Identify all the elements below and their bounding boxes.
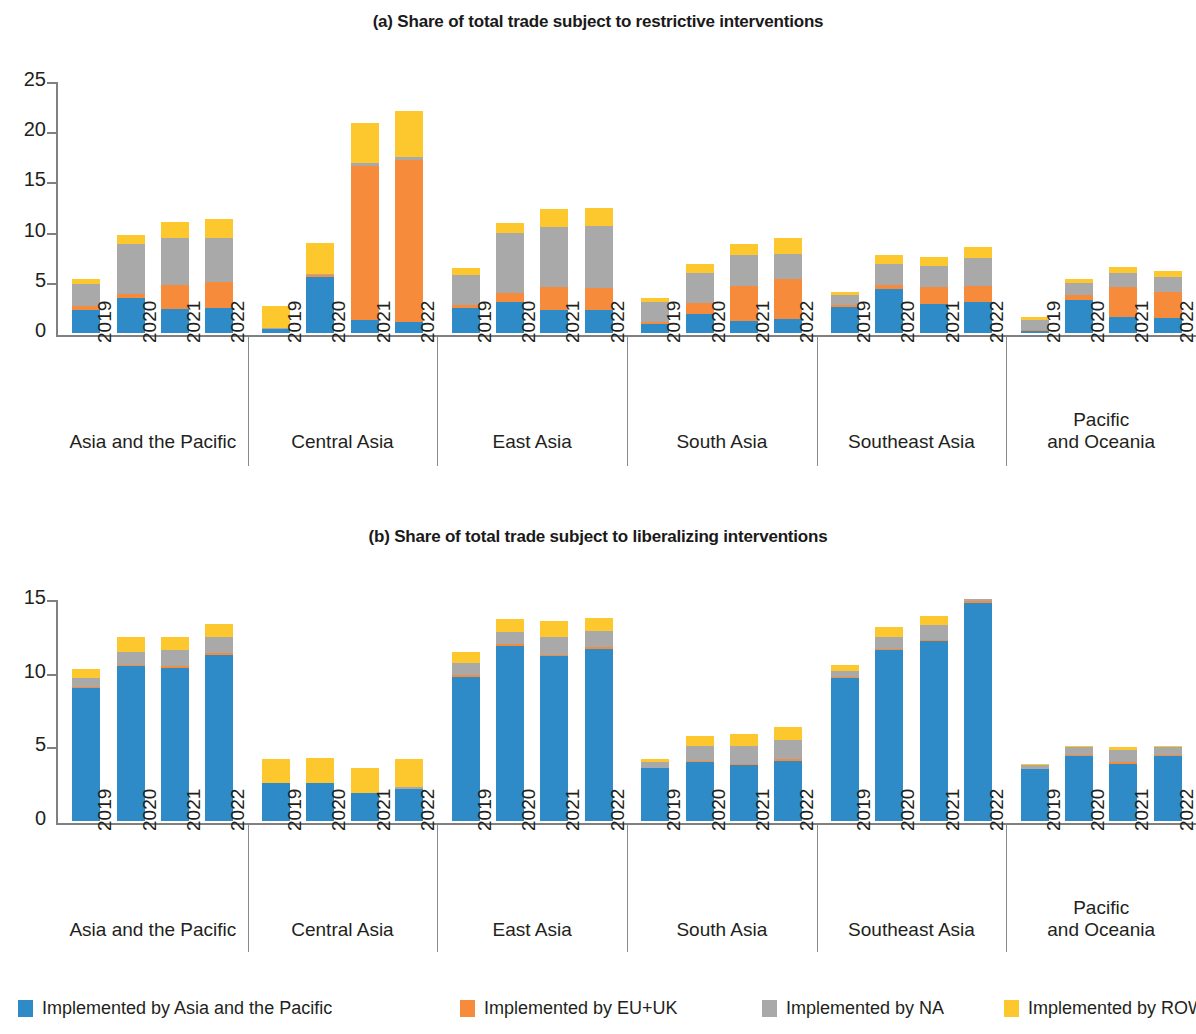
- bar-segment: [117, 637, 145, 652]
- y-tick-mark: [47, 747, 56, 749]
- figure-root: (a) Share of total trade subject to rest…: [0, 0, 1196, 1034]
- bar-segment: [72, 669, 100, 678]
- bar-segment: [205, 637, 233, 653]
- bar-group: [58, 82, 248, 333]
- legend-swatch-icon: [460, 1000, 475, 1017]
- legend-label: Implemented by NA: [786, 998, 944, 1019]
- y-tick-mark: [47, 132, 56, 134]
- x-tick-label-year: 2022: [797, 301, 816, 343]
- x-tick-label-year: 2022: [987, 301, 1006, 343]
- x-axis-group-label: Central Asia: [248, 919, 438, 941]
- x-tick-label-year: 2021: [753, 301, 772, 343]
- group-label-line: and Oceania: [1006, 431, 1196, 453]
- x-tick-label-year: 2020: [140, 301, 159, 343]
- x-tick-label-year: 2020: [1088, 301, 1107, 343]
- panel-b-y-axis-labels: 051015: [0, 560, 46, 825]
- x-axis-group-label: East Asia: [437, 919, 627, 941]
- bar-segment: [774, 740, 802, 759]
- x-tick-label-year: 2019: [854, 789, 873, 831]
- x-tick-label-year: 2022: [987, 789, 1006, 831]
- bar-group: [1006, 82, 1196, 333]
- x-axis-group-label: Asia and the Pacific: [58, 431, 248, 453]
- x-tick-label-year: 2022: [1177, 301, 1196, 343]
- x-tick-label-year: 2020: [1088, 789, 1107, 831]
- bar-segment: [161, 650, 189, 666]
- bar-segment: [452, 268, 480, 275]
- bar-segment: [585, 208, 613, 226]
- legend-item-eu_uk[interactable]: Implemented by EU+UK: [460, 998, 678, 1019]
- bar-segment: [585, 631, 613, 647]
- bar[interactable]: [395, 111, 423, 333]
- x-tick-label-year: 2021: [184, 789, 203, 831]
- legend-item-row[interactable]: Implemented by ROW: [1004, 998, 1196, 1019]
- panel-a-chart: 0510152025 2019202020212022Asia and the …: [0, 60, 1196, 500]
- x-tick-label-year: 2020: [898, 789, 917, 831]
- bar-segment: [730, 255, 758, 286]
- bar-segment: [496, 233, 524, 293]
- legend-item-na[interactable]: Implemented by NA: [762, 998, 944, 1019]
- x-tick-label-year: 2020: [329, 301, 348, 343]
- x-tick-label-year: 2019: [1044, 789, 1063, 831]
- bar-segment: [875, 637, 903, 649]
- bar-segment: [686, 264, 714, 273]
- legend-swatch-icon: [1004, 1000, 1019, 1017]
- bar-segment: [920, 616, 948, 625]
- bar-segment: [774, 727, 802, 740]
- group-label-line: Pacific: [1006, 897, 1196, 919]
- x-tick-label-year: 2022: [418, 789, 437, 831]
- x-tick-label-year: 2022: [228, 789, 247, 831]
- legend-item-asia_pacific[interactable]: Implemented by Asia and the Pacific: [18, 998, 332, 1019]
- x-tick-label-year: 2020: [709, 789, 728, 831]
- panel-b-x-axis-band: 2019202020212022Asia and the Pacific2019…: [0, 823, 1196, 956]
- x-axis-group-label: Pacificand Oceania: [1006, 897, 1196, 942]
- x-axis-group-label: Asia and the Pacific: [58, 919, 248, 941]
- bar-segment: [730, 734, 758, 746]
- x-tick-label-year: 2019: [95, 301, 114, 343]
- group-label-line: Pacific: [1006, 409, 1196, 431]
- x-tick-label-year: 2021: [374, 789, 393, 831]
- bar-segment: [117, 652, 145, 665]
- bar-segment: [1065, 747, 1093, 754]
- bar-segment: [540, 621, 568, 637]
- bar-segment: [306, 243, 334, 274]
- y-tick-mark: [47, 182, 56, 184]
- group-label-line: Asia and the Pacific: [58, 431, 248, 453]
- x-tick-label-year: 2020: [898, 301, 917, 343]
- bar-segment: [395, 160, 423, 322]
- y-tick-label: 10: [2, 220, 46, 240]
- bar-segment: [452, 652, 480, 664]
- bar-segment: [117, 244, 145, 294]
- x-tick-label-year: 2022: [228, 301, 247, 343]
- bar-segment: [964, 286, 992, 302]
- panel-a-x-axis-band: 2019202020212022Asia and the Pacific2019…: [0, 335, 1196, 470]
- x-tick-label-year: 2021: [943, 789, 962, 831]
- group-label-line: Southeast Asia: [817, 431, 1007, 453]
- x-tick-label-year: 2019: [664, 789, 683, 831]
- x-tick-label-year: 2021: [943, 301, 962, 343]
- x-axis-group-label: Southeast Asia: [817, 431, 1007, 453]
- x-tick-label-year: 2020: [329, 789, 348, 831]
- bar[interactable]: [964, 599, 992, 821]
- x-tick-label-year: 2020: [140, 789, 159, 831]
- bar-segment: [920, 625, 948, 640]
- bar-segment: [920, 266, 948, 287]
- y-tick-mark: [47, 82, 56, 84]
- x-tick-label-year: 2019: [475, 789, 494, 831]
- bar-segment: [774, 254, 802, 279]
- x-tick-label-year: 2019: [95, 789, 114, 831]
- bar-group: [817, 82, 1007, 333]
- y-tick-label: 5: [2, 734, 46, 754]
- bar-segment: [540, 637, 568, 655]
- x-tick-label-year: 2020: [519, 301, 538, 343]
- x-axis-group-label: East Asia: [437, 431, 627, 453]
- x-tick-label-year: 2021: [1132, 789, 1151, 831]
- bar-segment: [72, 678, 100, 687]
- bar-segment: [964, 258, 992, 286]
- x-tick-label-year: 2021: [753, 789, 772, 831]
- bar-segment: [117, 235, 145, 244]
- bar-segment: [306, 758, 334, 783]
- bar-segment: [585, 226, 613, 288]
- group-label-line: Asia and the Pacific: [58, 919, 248, 941]
- bar-segment: [1109, 750, 1137, 762]
- x-tick-label-year: 2022: [797, 789, 816, 831]
